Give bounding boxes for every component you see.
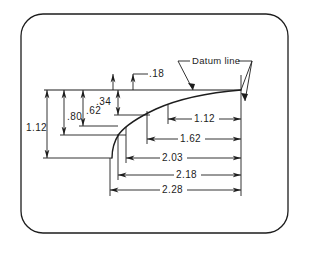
vertical-dimension-0-18-label: .18: [149, 68, 164, 79]
vertical-dimension-1-12-label: 1.12: [26, 122, 47, 133]
datum-line-label: Datum line: [192, 55, 240, 66]
horizontal-dimension-1-12: 1.12: [168, 113, 241, 124]
vertical-dimension-0-80: .80: [64, 90, 82, 135]
drawing-frame: [21, 14, 288, 233]
airfoil-profile-curve: [112, 90, 241, 158]
horizontal-dimension-2-18-label: 2.18: [176, 169, 197, 180]
engineering-drawing: 1.12 .80 .62 .34 .18 1.12: [0, 0, 310, 255]
horizontal-dimension-2-18: 2.18: [118, 169, 241, 180]
horizontal-dimension-2-28: 2.28: [110, 184, 241, 195]
vertical-dimension-0-34-label: .34: [96, 96, 111, 107]
horizontal-dimension-2-28-label: 2.28: [162, 184, 183, 195]
figure-container: 1.12 .80 .62 .34 .18 1.12: [0, 0, 310, 255]
vertical-dimension-0-18: .18: [133, 68, 164, 90]
horizontal-dimension-1-12-label: 1.12: [194, 113, 215, 124]
vertical-dimension-1-12: 1.12: [26, 90, 47, 158]
vertical-dimension-0-80-label: .80: [67, 111, 82, 122]
horizontal-dimension-1-62: 1.62: [147, 133, 241, 144]
horizontal-dimension-2-03: 2.03: [126, 152, 241, 163]
horizontal-dimension-1-62-label: 1.62: [180, 133, 201, 144]
horizontal-dimension-2-03-label: 2.03: [162, 152, 183, 163]
